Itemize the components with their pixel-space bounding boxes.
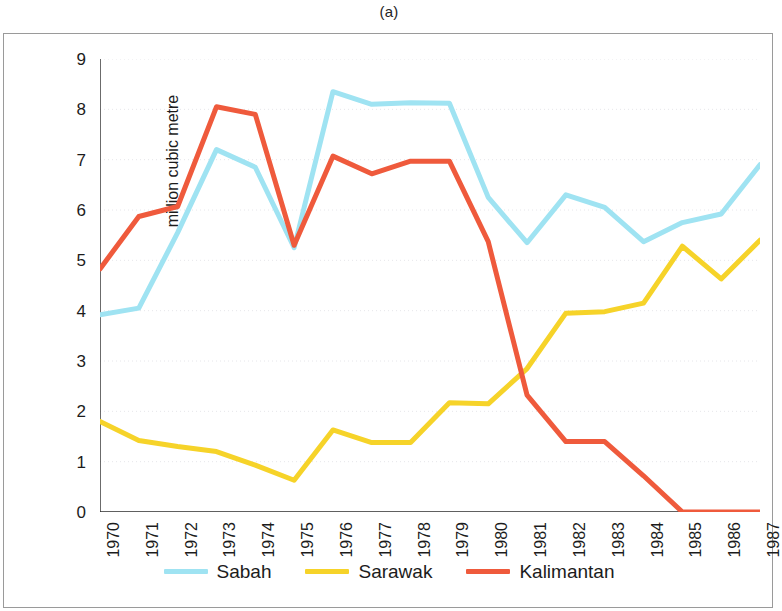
x-tick-label: 1983 — [611, 522, 627, 558]
y-tick-label: 3 — [77, 353, 86, 370]
y-tick-label: 4 — [77, 302, 86, 319]
legend-item-sarawak[interactable]: Sarawak — [305, 561, 432, 582]
y-tick-label: 7 — [77, 151, 86, 168]
series-line-sarawak — [100, 240, 760, 480]
y-tick-label: 1 — [77, 453, 86, 470]
x-tick-label: 1980 — [494, 522, 510, 558]
x-tick-label: 1984 — [650, 522, 666, 558]
x-tick-label: 1971 — [145, 522, 161, 558]
x-tick-label: 1985 — [688, 522, 704, 558]
legend-swatch-icon — [466, 569, 510, 574]
chart-legend: SabahSarawakKalimantan — [4, 561, 774, 582]
figure-caption: (a) — [0, 2, 778, 22]
x-tick-label: 1981 — [533, 522, 549, 558]
x-tick-label: 1973 — [222, 522, 238, 558]
x-tick-label: 1975 — [300, 522, 316, 558]
legend-label: Kalimantan — [519, 561, 614, 582]
legend-label: Sarawak — [358, 561, 432, 582]
gridlines — [100, 59, 760, 462]
chart-frame: million cubic metre 0123456789 197019711… — [3, 33, 773, 608]
x-tick-label: 1972 — [184, 522, 200, 558]
x-tick-label: 1987 — [766, 522, 782, 558]
legend-item-sabah[interactable]: Sabah — [164, 561, 272, 582]
y-tick-label: 8 — [77, 101, 86, 118]
x-tick-label: 1974 — [261, 522, 277, 558]
y-tick-label: 5 — [77, 252, 86, 269]
x-tick-label: 1979 — [455, 522, 471, 558]
legend-swatch-icon — [164, 569, 208, 574]
x-tick-label: 1982 — [572, 522, 588, 558]
y-tick-label: 6 — [77, 202, 86, 219]
axis-lines — [100, 59, 760, 512]
series-lines — [100, 92, 760, 512]
legend-item-kalimantan[interactable]: Kalimantan — [466, 561, 614, 582]
y-tick-label: 0 — [77, 504, 86, 521]
x-tick-label: 1977 — [378, 522, 394, 558]
x-tick-label: 1976 — [339, 522, 355, 558]
y-tick-label: 2 — [77, 403, 86, 420]
x-tick-label: 1978 — [417, 522, 433, 558]
x-tick-label: 1986 — [727, 522, 743, 558]
x-tick-label: 1970 — [106, 522, 122, 558]
plot-canvas — [100, 59, 760, 512]
plot-area: million cubic metre 0123456789 197019711… — [100, 59, 760, 512]
y-tick-label: 9 — [77, 51, 86, 68]
legend-swatch-icon — [305, 569, 349, 574]
legend-label: Sabah — [217, 561, 272, 582]
